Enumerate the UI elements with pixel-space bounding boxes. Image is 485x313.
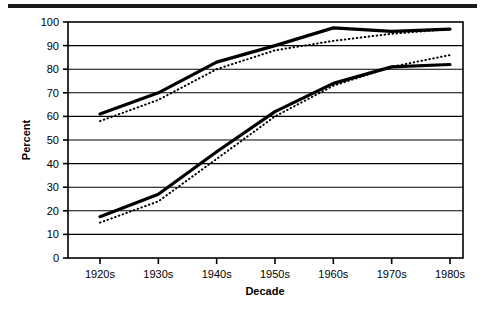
line-chart: 0102030405060708090100 1920s1930s1940s19… bbox=[0, 0, 485, 313]
y-axis-tick-label: 40 bbox=[47, 158, 59, 170]
data-series-group bbox=[100, 28, 450, 223]
series-line-upper-dotted bbox=[100, 29, 450, 121]
y-axis-tick-label: 100 bbox=[41, 16, 59, 28]
y-axis-tick-label: 20 bbox=[47, 205, 59, 217]
x-axis-tick-label: 1930s bbox=[143, 268, 173, 280]
y-axis-title: Percent bbox=[20, 119, 32, 160]
y-axis-tick-labels: 0102030405060708090100 bbox=[41, 16, 59, 264]
x-axis-tick-label: 1940s bbox=[202, 268, 232, 280]
x-axis-tick-label: 1980s bbox=[435, 268, 465, 280]
x-axis-tick-labels: 1920s1930s1940s1950s1960s1970s1980s bbox=[85, 268, 465, 280]
y-axis-tick-label: 90 bbox=[47, 40, 59, 52]
x-axis-tick-label: 1920s bbox=[85, 268, 115, 280]
x-axis-ticks bbox=[100, 258, 450, 264]
x-axis-tick-label: 1950s bbox=[260, 268, 290, 280]
y-axis-tick-label: 10 bbox=[47, 228, 59, 240]
y-axis-tick-label: 70 bbox=[47, 87, 59, 99]
y-axis-tick-label: 80 bbox=[47, 63, 59, 75]
x-axis-title: Decade bbox=[245, 285, 284, 297]
y-axis-tick-label: 60 bbox=[47, 110, 59, 122]
y-axis-tick-label: 50 bbox=[47, 134, 59, 146]
x-axis-tick-label: 1970s bbox=[377, 268, 407, 280]
series-line-lower-solid bbox=[100, 64, 450, 216]
x-axis-tick-label: 1960s bbox=[318, 268, 348, 280]
y-axis-tick-label: 30 bbox=[47, 181, 59, 193]
chart-figure: 0102030405060708090100 1920s1930s1940s19… bbox=[0, 0, 485, 313]
y-axis-tick-label: 0 bbox=[53, 252, 59, 264]
